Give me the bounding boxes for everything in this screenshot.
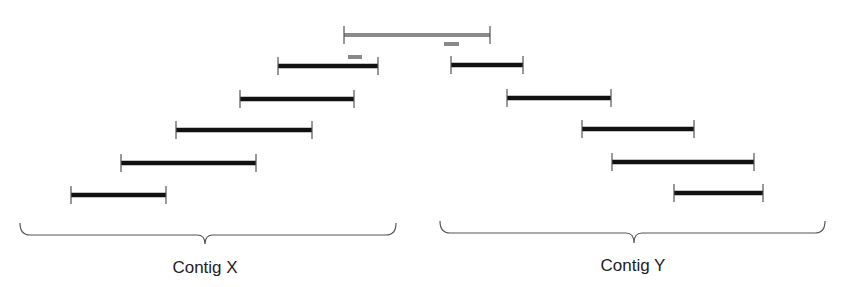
contig-x-label: Contig X bbox=[172, 258, 237, 278]
contig-assembly-diagram: Contig X Contig Y bbox=[0, 0, 846, 287]
contig-brace-2 bbox=[440, 221, 825, 243]
contig-y-label: Contig Y bbox=[601, 256, 666, 276]
contig-brace-1 bbox=[20, 223, 396, 244]
diagram-canvas bbox=[0, 0, 846, 287]
